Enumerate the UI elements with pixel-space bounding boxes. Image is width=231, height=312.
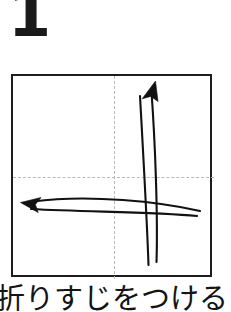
paper-square [11, 74, 212, 277]
origami-instruction-page: 1 折りすじをつける [0, 0, 231, 312]
step-caption: 折りすじをつける [0, 284, 231, 312]
step-number: 1 [8, 0, 54, 46]
horizontal-center-crease-line [13, 177, 214, 178]
